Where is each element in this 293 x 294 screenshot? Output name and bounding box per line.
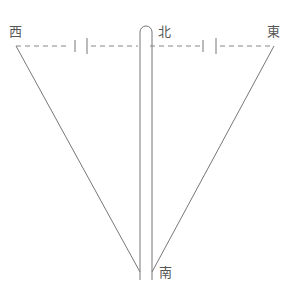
compass-diagram — [0, 0, 293, 294]
label-south: 南 — [159, 266, 172, 279]
west-diagonal — [16, 46, 140, 272]
central-pole — [140, 26, 152, 280]
east-diagonal — [152, 46, 274, 272]
label-east: 東 — [267, 25, 280, 38]
label-north: 北 — [158, 25, 171, 38]
label-west: 西 — [9, 25, 22, 38]
